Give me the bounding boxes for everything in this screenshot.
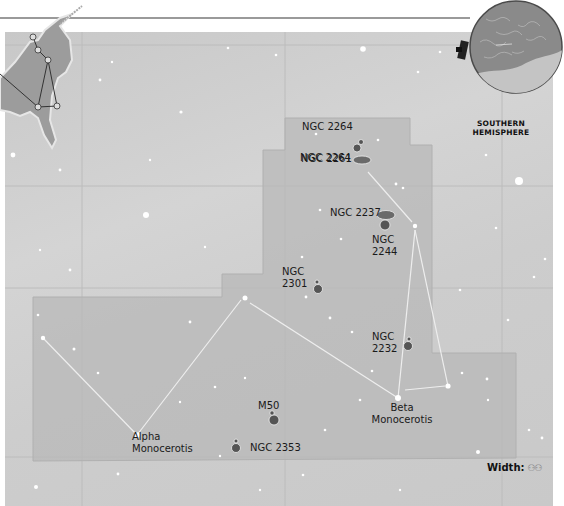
unicorn-illustration bbox=[0, 0, 90, 200]
label-ngc2232: NGC 2232 bbox=[372, 331, 397, 355]
ngc2261-symbol bbox=[353, 156, 371, 164]
southern-hemisphere-globe bbox=[456, 0, 564, 107]
hemisphere-label: SOUTHERN HEMISPHERE bbox=[449, 119, 553, 137]
label-ngc2264-main: NGC 2264 bbox=[302, 121, 353, 133]
label-ngc2301: NGC 2301 bbox=[282, 266, 307, 290]
label-ngc2353: NGC 2353 bbox=[250, 442, 301, 454]
label-beta-monocerotis: Beta Monocerotis bbox=[367, 402, 437, 426]
width-legend: Width: ⚇⚇ bbox=[487, 462, 542, 473]
label-ngc2237: NGC 2237 bbox=[330, 207, 381, 219]
binoculars-icon: ⚇⚇ bbox=[528, 463, 542, 473]
label-ngc2261: NGC 2261 bbox=[301, 153, 352, 165]
width-label: Width: bbox=[487, 462, 525, 473]
label-alpha-monocerotis: Alpha Monocerotis bbox=[132, 431, 193, 455]
label-ngc2244: NGC 2244 bbox=[372, 234, 397, 258]
ngc2244-symbol bbox=[380, 220, 390, 230]
label-m50: M50 bbox=[258, 400, 279, 412]
